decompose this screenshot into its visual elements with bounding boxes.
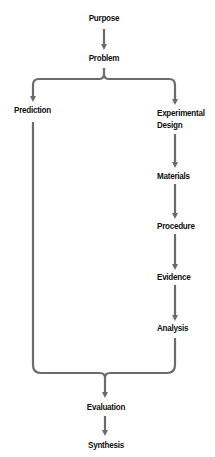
arrow-problem-experimental-design xyxy=(104,74,175,102)
arrow-analysis-evaluation xyxy=(105,338,175,395)
arrow-problem-prediction xyxy=(33,68,104,99)
node-synthesis: Synthesis xyxy=(88,439,124,451)
node-prediction: Prediction xyxy=(14,104,51,116)
node-experimental-design-line1: Experimental xyxy=(157,107,205,119)
node-problem: Problem xyxy=(89,52,120,64)
node-materials: Materials xyxy=(157,170,190,182)
node-purpose: Purpose xyxy=(89,12,120,24)
node-analysis: Analysis xyxy=(157,322,188,334)
node-evaluation: Evaluation xyxy=(87,401,125,413)
node-evidence: Evidence xyxy=(157,271,190,283)
scientific-method-flowchart: Purpose Problem Prediction Experimental … xyxy=(0,0,215,457)
line-prediction-merge xyxy=(33,122,105,378)
node-experimental-design-line2: Design xyxy=(157,119,182,131)
node-procedure: Procedure xyxy=(157,220,195,232)
